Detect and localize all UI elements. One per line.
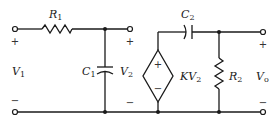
vo-plus-sign: + (259, 39, 267, 50)
circuit-svg: + − R1 C1 C2 KV2 R2 V1 V2 Vo + − + − + − (0, 0, 279, 128)
label-vo: Vo (256, 70, 269, 84)
input-bottom-terminal (13, 110, 18, 115)
v2-minus-sign: − (126, 97, 134, 108)
label-c1: C1 (82, 65, 96, 79)
label-v1: V1 (12, 65, 25, 79)
label-v2: V2 (120, 65, 133, 79)
source-minus-sign: − (154, 83, 162, 94)
label-c2: C2 (181, 8, 195, 22)
r1-resistor (42, 25, 72, 33)
source-plus-sign: + (154, 59, 162, 70)
junction-node-c1-bottom (103, 110, 107, 114)
vo-minus-sign: − (259, 97, 267, 108)
label-r1: R1 (48, 8, 62, 22)
v2-plus-sign: + (126, 36, 134, 47)
r2-resistor (215, 58, 223, 89)
dependent-voltage-source (143, 50, 173, 102)
input-top-terminal (13, 27, 18, 32)
v1-plus-sign: + (11, 36, 19, 47)
circuit-diagram: + − R1 C1 C2 KV2 R2 V1 V2 Vo + − + − + − (0, 0, 279, 128)
output-top-terminal (261, 30, 266, 35)
label-r2: R2 (228, 70, 242, 84)
v2-top-terminal (128, 27, 133, 32)
output-bottom-terminal (261, 110, 266, 115)
v1-minus-sign: − (11, 95, 19, 106)
label-kv2: KV2 (179, 70, 201, 84)
